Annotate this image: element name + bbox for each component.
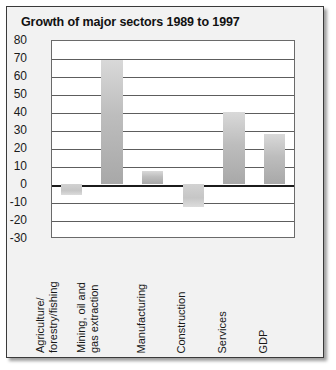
x-tick-label: Construction: [175, 245, 188, 353]
x-tick-label: Services: [216, 245, 229, 353]
bar: [264, 134, 285, 184]
chart-title: Growth of major sectors 1989 to 1997: [21, 15, 240, 29]
y-tick-label: -20: [0, 213, 27, 227]
bar: [101, 60, 122, 184]
x-tick-label: GDP: [256, 245, 269, 353]
y-tick-label: 20: [0, 141, 27, 155]
x-tick-label: Manufacturing: [134, 245, 147, 353]
y-tick-label: -30: [0, 231, 27, 245]
bar: [223, 112, 244, 184]
bar: [142, 171, 163, 184]
y-tick-label: 80: [0, 33, 27, 47]
bar-series: [51, 40, 295, 238]
y-tick-label: 10: [0, 159, 27, 173]
y-tick-label: 50: [0, 87, 27, 101]
chart-figure: Growth of major sectors 1989 to 1997 807…: [6, 6, 324, 358]
y-tick-label: 70: [0, 51, 27, 65]
bar: [61, 184, 82, 195]
y-tick-label: 0: [0, 177, 27, 191]
bar: [183, 184, 204, 207]
x-axis-labels: Agriculture/ forestry/fishingMining, oil…: [51, 241, 295, 353]
y-tick-label: 60: [0, 69, 27, 83]
x-tick-label: Agriculture/ forestry/fishing: [34, 245, 59, 353]
y-tick-label: -10: [0, 195, 27, 209]
y-tick-label: 40: [0, 105, 27, 119]
y-tick-label: 30: [0, 123, 27, 137]
x-tick-label: Mining, oil and gas extraction: [75, 245, 100, 353]
